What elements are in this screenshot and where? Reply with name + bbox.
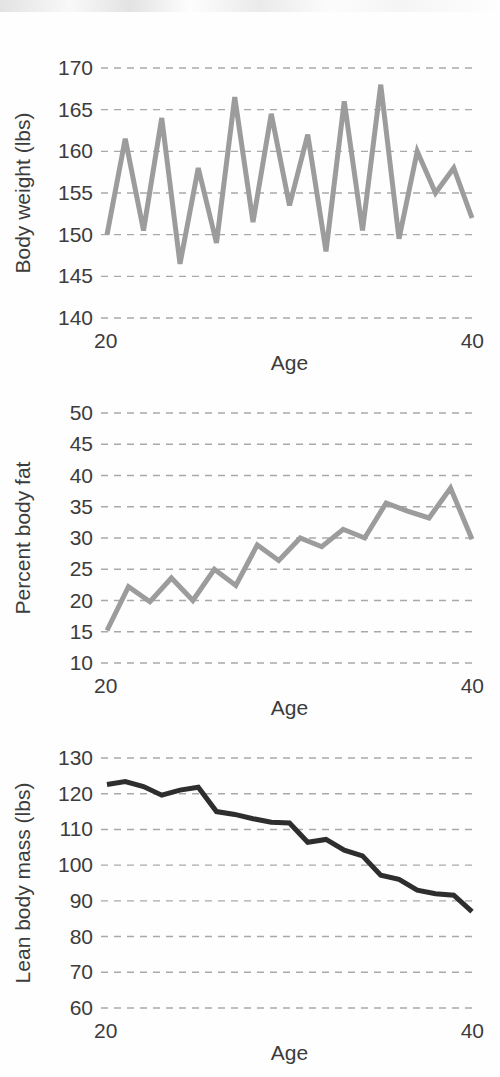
x-tick-label: 20 [94,329,117,352]
y-tick-label: 70 [70,960,93,983]
y-tick-label: 145 [58,264,93,287]
data-series-line [107,488,472,631]
x-tick-label: 20 [94,1019,117,1042]
x-tick-label: 20 [94,674,117,697]
scan-artifact [0,0,500,12]
x-tick-label: 40 [461,329,484,352]
x-tick-label: 40 [461,1019,484,1042]
y-tick-label: 35 [70,495,93,518]
x-axis-title: Age [271,351,308,374]
chart-panel-percent-body-fat: 1015202530354045502040AgePercent body fa… [0,375,500,720]
x-tick-labels: 2040 [94,329,484,352]
y-axis-title: Percent body fat [11,461,34,614]
y-axis-title: Lean body mass (lbs) [11,783,34,984]
chart-panel-lean-body-mass: 607080901001101201302040AgeLean body mas… [0,720,500,1065]
y-gridlines: 101520253035404550 [70,401,477,674]
y-tick-label: 80 [70,925,93,948]
y-tick-label: 90 [70,889,93,912]
y-gridlines: 140145150155160165170 [58,56,477,329]
y-axis-title: Body weight (lbs) [11,112,34,273]
y-tick-label: 130 [58,746,93,769]
y-tick-label: 100 [58,853,93,876]
chart-svg-body-weight-lbs: 1401451501551601651702040AgeBody weight … [0,30,500,375]
y-tick-label: 140 [58,306,93,329]
x-axis-title: Age [271,696,308,719]
y-tick-label: 10 [70,651,93,674]
data-series-line [107,782,472,912]
y-tick-label: 120 [58,782,93,805]
figure-page: 1401451501551601651702040AgeBody weight … [0,0,500,1077]
data-series-line [107,85,472,264]
y-tick-label: 30 [70,526,93,549]
x-tick-label: 40 [461,674,484,697]
x-tick-labels: 2040 [94,1019,484,1042]
chart-svg-lean-body-mass-lbs: 607080901001101201302040AgeLean body mas… [0,720,500,1065]
y-tick-label: 45 [70,432,93,455]
y-tick-label: 25 [70,557,93,580]
chart-panel-body-weight: 1401451501551601651702040AgeBody weight … [0,30,500,375]
chart-svg-percent-body-fat: 1015202530354045502040AgePercent body fa… [0,375,500,720]
x-tick-labels: 2040 [94,674,484,697]
y-tick-label: 50 [70,401,93,424]
x-axis-title: Age [271,1041,308,1064]
y-tick-label: 165 [58,98,93,121]
y-tick-label: 60 [70,996,93,1019]
y-tick-label: 160 [58,139,93,162]
y-tick-label: 150 [58,223,93,246]
y-tick-label: 170 [58,56,93,79]
y-tick-label: 110 [60,817,93,840]
y-gridlines: 60708090100110120130 [58,746,477,1019]
y-tick-label: 20 [70,589,93,612]
y-tick-label: 40 [70,464,93,487]
y-tick-label: 155 [58,181,93,204]
y-tick-label: 15 [70,620,93,643]
